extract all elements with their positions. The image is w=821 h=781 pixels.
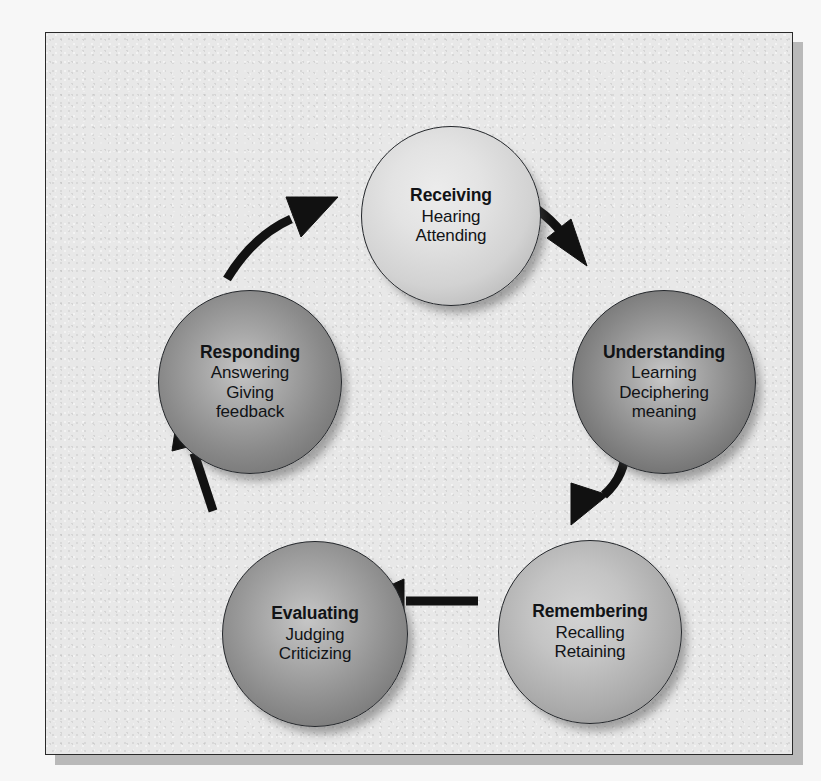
node-evaluating-title: Evaluating [271, 604, 359, 624]
node-receiving[interactable]: Receiving Hearing Attending [361, 126, 541, 306]
node-understanding-sub-3: meaning [632, 402, 697, 421]
node-responding-sub-1: Answering [211, 363, 289, 382]
node-understanding-sub-2: Deciphering [619, 383, 709, 402]
node-responding-title: Responding [200, 343, 300, 363]
node-understanding-sub-1: Learning [631, 363, 696, 382]
node-understanding[interactable]: Understanding Learning Deciphering meani… [572, 290, 756, 474]
node-evaluating-sub-2: Criticizing [279, 644, 352, 663]
node-receiving-sub-1: Hearing [422, 207, 481, 226]
node-responding[interactable]: Responding Answering Giving feedback [158, 290, 342, 474]
node-responding-sub-2: Giving [226, 383, 274, 402]
node-remembering[interactable]: Remembering Recalling Retaining [498, 540, 682, 724]
node-remembering-sub-1: Recalling [555, 623, 624, 642]
node-receiving-sub-2: Attending [416, 226, 487, 245]
listening-cycle-diagram: Receiving Hearing Attending Understandin… [46, 33, 792, 754]
node-remembering-sub-2: Retaining [555, 642, 626, 661]
arrow-responding-to-receiving [227, 197, 338, 279]
node-receiving-title: Receiving [410, 186, 492, 206]
node-understanding-title: Understanding [603, 343, 725, 363]
node-evaluating-sub-1: Judging [286, 625, 345, 644]
figure-frame: Receiving Hearing Attending Understandin… [45, 32, 793, 755]
node-remembering-title: Remembering [532, 602, 648, 622]
node-evaluating[interactable]: Evaluating Judging Criticizing [222, 541, 408, 727]
node-responding-sub-3: feedback [216, 402, 284, 421]
